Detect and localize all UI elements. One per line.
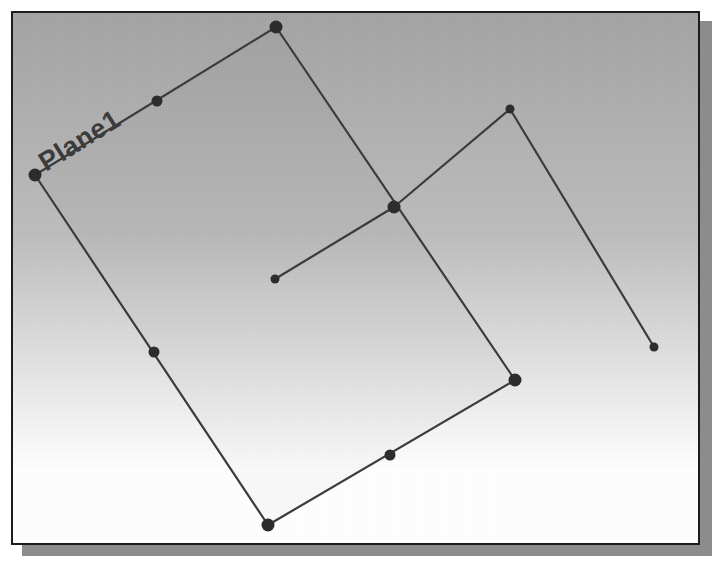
- control-point-corner-top[interactable]: [270, 21, 283, 34]
- application-window: Plane1: [0, 0, 720, 565]
- control-point-corner-right[interactable]: [509, 374, 522, 387]
- control-point-polyline-start[interactable]: [271, 275, 280, 284]
- model-viewport[interactable]: Plane1: [13, 13, 698, 543]
- control-point-polyline-vertex[interactable]: [388, 201, 401, 214]
- control-point-corner-bottom[interactable]: [262, 519, 275, 532]
- control-point-midpoint-top-left[interactable]: [152, 96, 163, 107]
- control-point-midpoint-left-bottom[interactable]: [149, 347, 160, 358]
- control-point-corner-left[interactable]: [29, 169, 42, 182]
- geometry-canvas[interactable]: Plane1: [13, 13, 698, 543]
- control-point-midpoint-bottom-right[interactable]: [385, 450, 396, 461]
- control-point-polyline-apex[interactable]: [506, 105, 515, 114]
- control-point-polyline-end[interactable]: [650, 343, 659, 352]
- document-page-frame: Plane1: [11, 11, 700, 545]
